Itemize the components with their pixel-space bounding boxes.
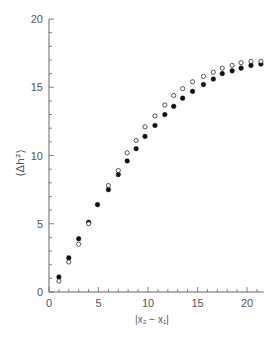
open-circle-marker xyxy=(163,103,167,107)
open-circle-marker xyxy=(143,125,147,129)
series-filled xyxy=(57,62,264,280)
open-circle-marker xyxy=(77,242,81,246)
open-circle-marker xyxy=(230,63,234,67)
filled-circle-marker xyxy=(190,89,195,94)
open-circle-marker xyxy=(181,87,185,91)
filled-circle-marker xyxy=(180,96,185,101)
open-circle-marker xyxy=(106,183,110,187)
x-tick-label: 20 xyxy=(241,297,253,309)
x-tick-label: 15 xyxy=(191,297,203,309)
filled-circle-marker xyxy=(57,275,62,280)
open-circle-marker xyxy=(153,114,157,118)
filled-circle-marker xyxy=(76,236,81,241)
open-circle-marker xyxy=(87,222,91,226)
filled-circle-marker xyxy=(230,69,235,74)
open-circle-marker xyxy=(125,151,129,155)
open-circle-marker xyxy=(239,61,243,65)
data-points xyxy=(57,59,264,283)
y-tick-label: 0 xyxy=(37,286,43,298)
filled-circle-marker xyxy=(125,159,130,164)
series-open xyxy=(57,59,263,283)
y-tick-label: 20 xyxy=(31,13,43,25)
x-tick-label: 0 xyxy=(46,297,52,309)
filled-circle-marker xyxy=(134,146,139,151)
open-circle-marker xyxy=(116,168,120,172)
y-tick-label: 10 xyxy=(31,150,43,162)
open-circle-marker xyxy=(201,74,205,78)
filled-circle-marker xyxy=(163,112,168,117)
filled-circle-marker xyxy=(171,104,176,109)
x-tick-label: 10 xyxy=(142,297,154,309)
scatter-chart: 0510152005101520 |x₂ − x₁| ⟨Δh²⟩ xyxy=(0,0,278,338)
y-tick-label: 15 xyxy=(31,81,43,93)
open-circle-marker xyxy=(57,279,61,283)
open-circle-marker xyxy=(259,59,263,63)
x-tick-label: 5 xyxy=(95,297,101,309)
filled-circle-marker xyxy=(220,71,225,76)
filled-circle-marker xyxy=(201,82,206,87)
open-circle-marker xyxy=(249,59,253,63)
filled-circle-marker xyxy=(106,187,111,192)
axes: 0510152005101520 xyxy=(31,13,264,309)
filled-circle-marker xyxy=(153,123,158,128)
filled-circle-marker xyxy=(249,63,254,68)
open-circle-marker xyxy=(190,80,194,84)
filled-circle-marker xyxy=(67,256,72,261)
x-axis-label: |x₂ − x₁| xyxy=(135,314,169,325)
filled-circle-marker xyxy=(239,66,244,71)
y-axis-label: ⟨Δh²⟩ xyxy=(14,149,27,177)
open-circle-marker xyxy=(220,66,224,70)
open-circle-marker xyxy=(211,70,215,74)
open-circle-marker xyxy=(134,138,138,142)
open-circle-marker xyxy=(172,93,176,97)
filled-circle-marker xyxy=(116,172,121,177)
open-circle-marker xyxy=(67,260,71,264)
y-tick-label: 5 xyxy=(37,218,43,230)
filled-circle-marker xyxy=(211,77,216,82)
filled-circle-marker xyxy=(95,202,100,207)
filled-circle-marker xyxy=(143,134,148,139)
